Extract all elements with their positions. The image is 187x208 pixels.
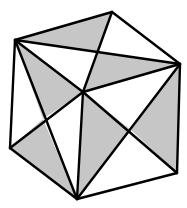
shaded-triangle bbox=[10, 119, 77, 199]
shaded-regions bbox=[10, 12, 180, 199]
shaded-triangle bbox=[15, 40, 83, 119]
hexagon-triangle-diagram bbox=[0, 0, 187, 208]
edge-line bbox=[10, 40, 15, 148]
shaded-triangle bbox=[77, 92, 131, 199]
